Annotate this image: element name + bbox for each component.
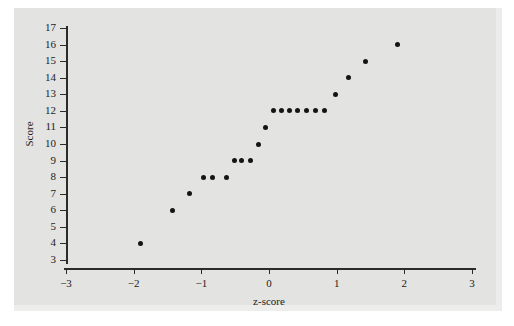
normal-probability-plot-figure: 34567891011121314151617 −3−2−10123 z-sco… — [0, 0, 514, 326]
x-axis-tick-label: 1 — [322, 277, 352, 289]
data-point — [256, 142, 261, 147]
x-axis-tick-label: −3 — [51, 277, 81, 289]
y-axis-tick-label: 5 — [26, 221, 56, 232]
data-point — [201, 175, 206, 180]
x-axis-tick — [66, 268, 67, 274]
y-axis-tick-label: 4 — [26, 237, 56, 248]
panel-right-edge — [496, 8, 502, 311]
y-axis-tick — [60, 260, 66, 261]
data-point — [187, 191, 192, 196]
y-axis-tick-label: 7 — [26, 188, 56, 199]
x-axis-tick — [337, 268, 338, 274]
y-axis-tick-label: 8 — [26, 171, 56, 182]
data-point — [333, 92, 338, 97]
x-axis-tick — [134, 268, 135, 274]
data-point — [313, 108, 318, 113]
y-axis-tick-label: 15 — [26, 55, 56, 66]
x-axis-tick-label: −2 — [119, 277, 149, 289]
y-axis-tick-label: 17 — [26, 22, 56, 33]
y-axis-tick-label: 16 — [26, 39, 56, 50]
x-axis-tick — [201, 268, 202, 274]
y-axis-tick-label: 13 — [26, 88, 56, 99]
data-point — [170, 208, 175, 213]
x-axis-tick-label: 3 — [457, 277, 487, 289]
y-axis-tick-label: 6 — [26, 204, 56, 215]
x-axis-tick — [269, 268, 270, 274]
data-point — [271, 108, 276, 113]
y-axis-tick-label: 14 — [26, 72, 56, 83]
y-axis-tick-label: 3 — [26, 254, 56, 265]
x-axis-line — [64, 268, 476, 270]
x-axis-tick — [404, 268, 405, 274]
x-axis-tick-label: 2 — [389, 277, 419, 289]
y-axis-label: Score — [23, 104, 35, 164]
scatter-plot-area — [66, 28, 472, 260]
x-axis-tick-label: 0 — [254, 277, 284, 289]
x-axis-label: z-score — [66, 295, 472, 307]
data-point — [363, 59, 368, 64]
data-point — [224, 175, 229, 180]
x-axis-tick-label: −1 — [186, 277, 216, 289]
x-axis-tick — [472, 268, 473, 274]
data-point — [138, 241, 143, 246]
